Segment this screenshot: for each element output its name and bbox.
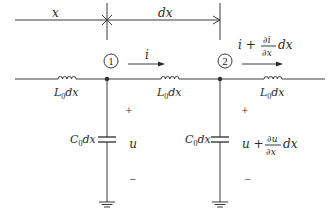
voltage-2-tail: dx bbox=[283, 137, 298, 151]
node-1-label: 1 bbox=[108, 55, 114, 67]
voltage-2-plus: + bbox=[242, 104, 249, 118]
shunt-branch-1: C0dx + u − bbox=[70, 79, 137, 207]
current-i2: i + ∂i ∂x dx bbox=[238, 35, 293, 67]
voltage-2-main: u + bbox=[242, 137, 264, 151]
current-i2-num: ∂i bbox=[263, 35, 271, 45]
voltage-2-minus: − bbox=[245, 172, 252, 186]
current-i2-main: i + bbox=[238, 38, 256, 52]
inductor-1-label: L0dx bbox=[53, 86, 79, 101]
inductor-1: L0dx bbox=[53, 77, 79, 102]
node-2-label: 2 bbox=[222, 55, 228, 67]
inductor-3: L0dx bbox=[259, 77, 285, 102]
voltage-2-num: ∂u bbox=[267, 134, 278, 144]
voltage-1-plus: + bbox=[126, 104, 133, 118]
current-i: i bbox=[128, 48, 165, 67]
circuit-diagram: x dx L0dx L0dx L0dx 1 2 bbox=[0, 0, 336, 220]
node-2: 2 bbox=[218, 54, 232, 81]
capacitor-2-label: C0dx bbox=[185, 133, 211, 148]
current-i2-den: ∂x bbox=[262, 48, 272, 58]
voltage-1-minus: − bbox=[130, 172, 137, 186]
inductor-2: L0dx bbox=[156, 77, 182, 102]
node-1: 1 bbox=[104, 54, 118, 81]
current-i2-tail: dx bbox=[278, 38, 293, 52]
dx-label: dx bbox=[158, 6, 173, 20]
current-i-label: i bbox=[145, 48, 149, 62]
inductor-2-label: L0dx bbox=[156, 86, 182, 101]
dimension-line: x dx bbox=[15, 3, 220, 40]
capacitor-1-label: C0dx bbox=[70, 133, 96, 148]
voltage-1-label: u bbox=[129, 137, 137, 151]
ground-icon bbox=[212, 202, 228, 207]
x-label: x bbox=[52, 6, 59, 20]
voltage-2-den: ∂x bbox=[266, 147, 276, 157]
inductor-3-label: L0dx bbox=[259, 86, 285, 101]
ground-icon bbox=[99, 202, 115, 207]
